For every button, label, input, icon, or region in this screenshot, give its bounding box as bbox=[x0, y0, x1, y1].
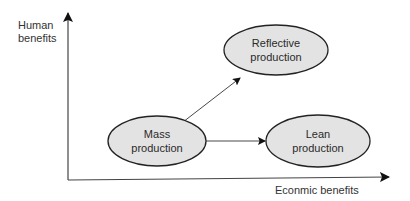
node-mass-line1: Mass bbox=[108, 127, 206, 141]
edge-mass-to-reflective bbox=[183, 78, 240, 122]
node-lean-line2: production bbox=[266, 141, 370, 155]
y-axis-label: Human benefits bbox=[18, 19, 57, 45]
y-axis-label-line2: benefits bbox=[18, 32, 57, 45]
node-label-reflective: Reflective production bbox=[224, 36, 328, 64]
node-mass-line2: production bbox=[108, 141, 206, 155]
node-reflective-line2: production bbox=[224, 50, 328, 64]
node-label-mass: Mass production bbox=[108, 127, 206, 155]
node-reflective-line1: Reflective bbox=[224, 36, 328, 50]
diagram-canvas bbox=[0, 0, 410, 201]
node-label-lean: Lean production bbox=[266, 127, 370, 155]
node-lean-line1: Lean bbox=[266, 127, 370, 141]
x-axis bbox=[68, 177, 389, 180]
x-axis-label: Econmic benefits bbox=[275, 184, 359, 197]
y-axis-label-line1: Human bbox=[18, 19, 57, 32]
